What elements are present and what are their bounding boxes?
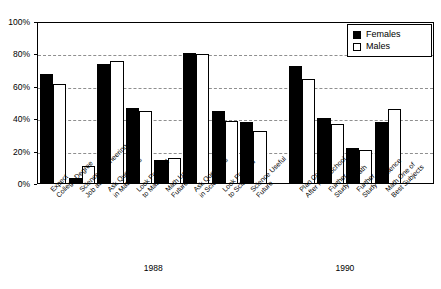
group-label-1990: 1990 <box>315 264 375 273</box>
group-label-1988: 1988 <box>123 264 183 273</box>
y-axis-tick-label: 100% <box>0 18 30 27</box>
y-axis-tick-label: 80% <box>0 50 30 59</box>
y-axis-tick-label: 40% <box>0 115 30 124</box>
bar-males <box>53 84 66 184</box>
legend-item-males: Males <box>353 41 427 52</box>
legend-label-females: Females <box>366 30 401 39</box>
grouped-bar-chart: 0%20%40%60%80%100% Females Males ExpectC… <box>0 0 441 289</box>
y-axis-tick-label: 20% <box>0 148 30 157</box>
y-axis-tick-label: 60% <box>0 83 30 92</box>
category-axis-labels: ExpectCollege DegreeScience/EngineeringJ… <box>0 184 441 259</box>
legend-swatch-females-icon <box>353 31 361 39</box>
legend-swatch-males-icon <box>353 43 361 51</box>
legend: Females Males <box>347 24 432 57</box>
bar-females <box>40 74 53 184</box>
legend-item-females: Females <box>353 29 427 40</box>
bar-males <box>196 54 209 184</box>
bar-males <box>302 79 315 184</box>
legend-label-males: Males <box>366 42 390 51</box>
